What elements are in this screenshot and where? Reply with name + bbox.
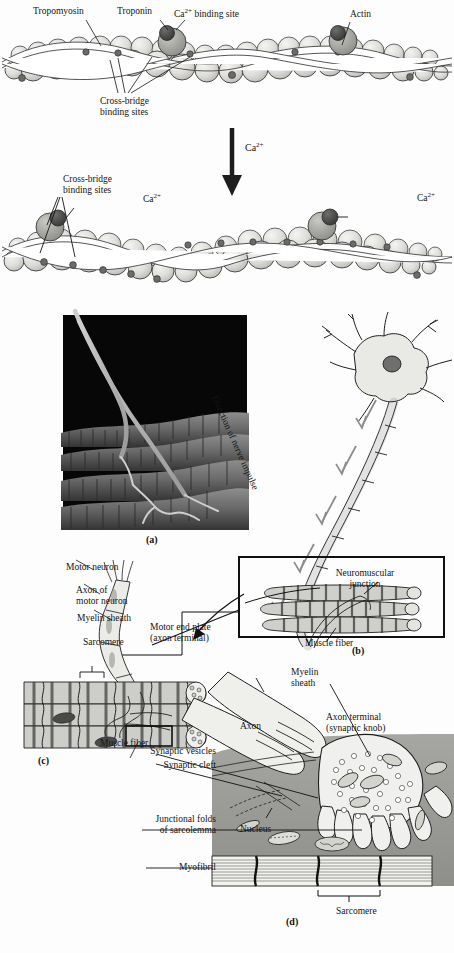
label-tropomyosin: Tropomyosin xyxy=(33,6,84,17)
label-myofibril: Myofibril xyxy=(110,862,216,873)
sarcomere-bracket-d xyxy=(318,890,380,902)
nucleus-icon xyxy=(383,356,401,372)
label-myelin-sheath-d: Myelinsheath xyxy=(291,667,318,689)
myofibril-d xyxy=(212,856,432,886)
label-myelin-sheath-c: Myelin sheath xyxy=(77,613,131,624)
label-ca-binding-site: Ca2+ binding site xyxy=(174,6,239,20)
label-cross-bridge-binding-sites-top: Cross-bridge binding sites xyxy=(100,96,149,118)
label-motor-neuron: Motor neuron xyxy=(66,562,119,573)
ca-binding-site-node xyxy=(331,26,346,41)
label-axon-d: Axon xyxy=(240,721,261,732)
label-axon-of-motor-neuron: Axon ofmotor neuron xyxy=(76,585,127,607)
panel-b-neuron-diagram xyxy=(244,312,454,642)
bound-calcium-node xyxy=(322,209,338,225)
label-calcium-arrow: Ca2+ xyxy=(245,140,264,153)
panel-d-letter: (d) xyxy=(286,916,298,927)
neuron-cell-body xyxy=(354,334,428,402)
label-actin: Actin xyxy=(350,9,371,20)
thin-filament-relaxed-diagram xyxy=(0,0,454,140)
label-nucleus-d: Nucleus xyxy=(240,824,271,835)
label-sarcomere-d: Sarcomere xyxy=(336,906,377,917)
label-calcium-right: Ca2+ xyxy=(417,190,435,204)
label-sarcomere-c: Sarcomere xyxy=(83,637,124,648)
thin-filament-activated-diagram xyxy=(0,195,454,305)
fiber-end-cap xyxy=(405,587,421,631)
panel-b-letter: (b) xyxy=(352,645,364,656)
figure-root: Tropomyosin Troponin Ca2+ binding site A… xyxy=(0,0,454,953)
label-calcium-left: Ca2+ xyxy=(143,191,161,205)
label-synaptic-vesicles: Synaptic vesicles xyxy=(96,746,216,757)
label-axon-terminal: Axon terminal(synaptic knob) xyxy=(326,712,385,734)
panel-c-letter: (c) xyxy=(38,755,49,766)
label-troponin: Troponin xyxy=(117,6,152,17)
muscle-fiber-bundle-b xyxy=(261,584,422,633)
label-muscle-fiber-b: Muscle fiber xyxy=(305,638,353,649)
label-junctional-folds: Junctional foldsof sarcolemma xyxy=(96,814,216,836)
label-motor-end-plate: Motor end plate(axon terminal) xyxy=(150,622,211,644)
panel-a-letter: (a) xyxy=(146,534,158,545)
label-cross-bridge-binding-sites-bottom: Cross-bridge binding sites xyxy=(63,174,112,196)
label-synaptic-cleft: Synaptic cleft xyxy=(96,760,216,771)
label-neuromuscular-junction: Neuromuscularjunction xyxy=(305,568,425,590)
sarcomere-bracket-c xyxy=(80,666,104,678)
ca-binding-site-node xyxy=(160,26,175,41)
